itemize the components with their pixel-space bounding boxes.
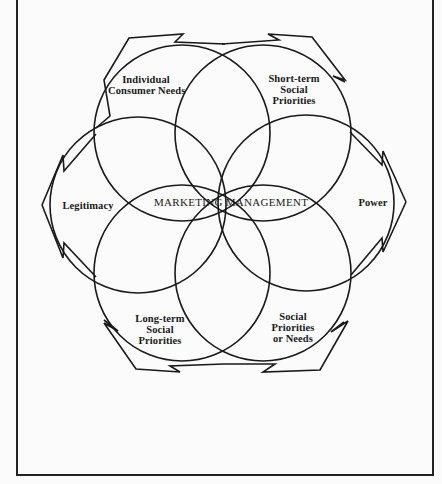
label-line: Priorities <box>262 95 326 106</box>
label-line: Priorities <box>264 322 322 333</box>
arrow-right-top <box>350 132 406 202</box>
label-line: Social <box>130 324 190 335</box>
label-line: or Needs <box>264 333 322 344</box>
label-legitimacy: Legitimacy <box>60 200 116 211</box>
circle-social-priorities-or-needs <box>175 185 351 361</box>
label-line: Priorities <box>130 335 190 346</box>
overlapping-circles-diagram <box>0 0 442 484</box>
label-line: Long-term <box>130 313 190 324</box>
arrow-right-bottom <box>351 202 406 275</box>
label-long-term-social-priorities: Long-term Social Priorities <box>130 313 190 346</box>
label-line: Social <box>262 84 326 95</box>
circle-individual-consumer-needs <box>94 45 270 221</box>
label-social-priorities-or-needs: Social Priorities or Needs <box>264 311 322 344</box>
label-line: Social <box>264 311 322 322</box>
label-line: Short-term <box>262 73 326 84</box>
label-line: Individual <box>108 74 184 85</box>
label-individual-consumer-needs: Individual Consumer Needs <box>108 74 184 96</box>
label-power: Power <box>355 197 391 208</box>
circle-short-term-social-priorities <box>175 45 351 221</box>
label-short-term-social-priorities: Short-term Social Priorities <box>262 73 326 106</box>
center-label-marketing-management: MARKETING MANAGEMENT <box>154 196 308 208</box>
label-line: Consumer Needs <box>108 85 184 96</box>
label-line: Power <box>355 197 391 208</box>
label-line: Legitimacy <box>60 200 116 211</box>
